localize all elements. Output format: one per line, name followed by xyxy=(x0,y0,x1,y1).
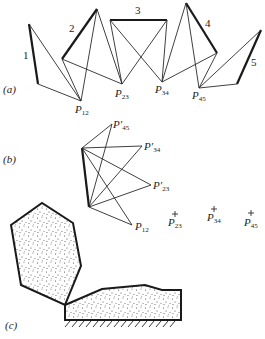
link-4-thick xyxy=(186,3,217,53)
link-2-c xyxy=(62,59,122,84)
part-c-bodies: (c) xyxy=(5,203,181,332)
ground-hatching xyxy=(65,321,175,327)
svg-text:P34: P34 xyxy=(206,211,221,225)
part-a-label: (a) xyxy=(3,83,16,96)
upper-body xyxy=(11,203,81,305)
link-5-b xyxy=(199,84,237,88)
link-2-thick xyxy=(62,9,97,59)
link-5-thick xyxy=(237,30,261,84)
part-c-label: (c) xyxy=(5,319,18,332)
line-b-p45 xyxy=(89,124,112,207)
pole-p12-label: P12 xyxy=(74,103,89,117)
image-pole-p23-label: P′23 xyxy=(152,179,170,193)
pole-p34-label: P34 xyxy=(154,83,169,97)
link-5-label: 5 xyxy=(251,56,257,68)
cross-p23: P23 xyxy=(167,211,182,230)
lower-body xyxy=(65,285,181,320)
pole-p45-label: P45 xyxy=(191,89,206,103)
link-2-label: 2 xyxy=(69,22,75,34)
kinematic-diagram: 1 2 3 4 5 (a) P12 P23 P34 P45 (b) P′45 P… xyxy=(0,0,265,339)
link-4-b xyxy=(162,53,217,82)
image-pole-p34-label: P′34 xyxy=(143,140,161,154)
line-a-p23 xyxy=(82,148,151,185)
svg-text:P45: P45 xyxy=(243,216,258,230)
cross-p34: P34 xyxy=(206,206,221,225)
link-3-label: 3 xyxy=(135,4,141,16)
svg-text:P23: P23 xyxy=(167,216,182,230)
part-b-label: (b) xyxy=(3,153,16,166)
link-1-label: 1 xyxy=(23,49,29,61)
cross-p45: P45 xyxy=(243,210,258,230)
part-a-positions: 1 2 3 4 5 (a) P12 P23 P34 P45 xyxy=(3,3,261,117)
link-4-c xyxy=(186,3,199,88)
link-4-label: 4 xyxy=(205,17,211,29)
link-1-thick xyxy=(29,24,38,84)
link-1-side xyxy=(29,24,81,101)
link-2-b xyxy=(81,9,97,101)
line-a-p34 xyxy=(82,146,142,148)
pole-p12-b-label: P12 xyxy=(134,220,149,234)
link-3-b xyxy=(122,20,167,84)
pole-p23-label: P23 xyxy=(114,87,129,101)
image-pole-p45-label: P′45 xyxy=(112,118,130,132)
line-b-p12 xyxy=(89,207,132,225)
line-a-p45 xyxy=(82,124,112,148)
